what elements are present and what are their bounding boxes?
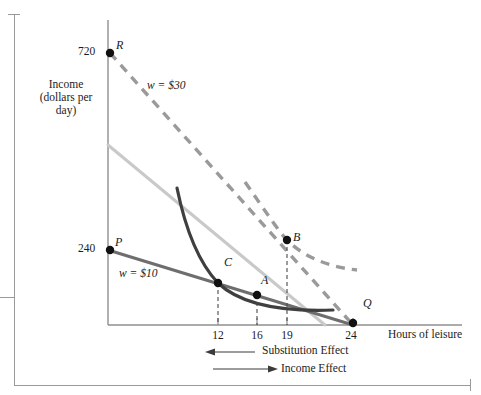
substitution-effect-arrowhead-icon	[205, 349, 215, 356]
y-axis-title-line1: Income	[30, 78, 102, 91]
point-marker-A	[253, 291, 261, 299]
point-marker-Q	[349, 319, 357, 327]
y-axis-title: Income (dollars per day)	[30, 78, 102, 118]
figure-container: Income (dollars per day) Hours of leisur…	[0, 0, 481, 395]
x-tick-label-24: 24	[339, 329, 363, 342]
point-marker-B	[283, 236, 291, 244]
x-tick-label-19: 19	[275, 329, 299, 342]
point-label-B: B	[293, 230, 300, 245]
income-effect-label: Income Effect	[281, 362, 346, 374]
point-label-Q: Q	[363, 296, 372, 311]
indifference-curve-high	[245, 182, 357, 270]
point-marker-P	[106, 246, 114, 254]
y-axis-title-line2: (dollars per	[30, 91, 102, 104]
point-label-P: P	[115, 235, 122, 250]
wage-label-low: w = $10	[119, 267, 157, 279]
substitution-effect-label: Substitution Effect	[262, 344, 348, 356]
point-marker-C	[214, 279, 222, 287]
income-effect-arrowhead-icon	[268, 366, 278, 373]
point-marker-R	[106, 49, 114, 57]
x-tick-label-12: 12	[206, 329, 230, 342]
x-tick-label-16: 16	[245, 329, 269, 342]
y-tick-label-720: 720	[78, 45, 95, 58]
wage-label-high: w = $30	[147, 79, 185, 91]
point-label-R: R	[116, 38, 123, 53]
point-label-C: C	[224, 255, 232, 270]
y-axis-title-line3: day)	[30, 104, 102, 117]
budget-line-wage-30	[110, 53, 353, 325]
point-label-A: A	[261, 273, 268, 288]
y-tick-label-240: 240	[78, 242, 95, 255]
x-axis-title: Hours of leisure	[388, 328, 462, 341]
